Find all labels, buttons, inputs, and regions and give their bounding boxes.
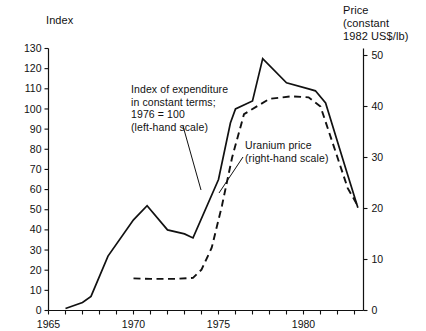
right-tick-label: 40 xyxy=(372,100,384,112)
leader-line-index xyxy=(183,126,201,190)
right-tick-label: 20 xyxy=(372,202,384,214)
plot-area: 0102030405060708090100110120130 01020304… xyxy=(0,0,426,331)
data-series xyxy=(66,59,358,309)
right-tick-label: 30 xyxy=(372,151,384,163)
left-tick-label: 0 xyxy=(36,304,42,316)
right-tick-label: 0 xyxy=(372,304,378,316)
right-tick-label: 50 xyxy=(372,49,384,61)
right-tick-label: 10 xyxy=(372,253,384,265)
left-tick-label: 40 xyxy=(30,223,42,235)
x-tick-label: 1980 xyxy=(292,318,316,330)
left-tick-label: 70 xyxy=(30,163,42,175)
left-tick-label: 130 xyxy=(24,42,42,54)
left-tick-label: 20 xyxy=(30,264,42,276)
left-tick-label: 120 xyxy=(24,62,42,74)
x-tick-label: 1970 xyxy=(122,318,146,330)
left-tick-label: 30 xyxy=(30,244,42,256)
left-tick-label: 60 xyxy=(30,183,42,195)
series-uranium-price xyxy=(134,96,358,279)
right-axis: 01020304050 xyxy=(364,49,384,317)
left-tick-label: 80 xyxy=(30,143,42,155)
left-tick-label: 90 xyxy=(30,123,42,135)
left-tick-label: 100 xyxy=(24,103,42,115)
left-tick-label: 110 xyxy=(25,82,42,94)
series-index-expenditure xyxy=(66,59,358,309)
annotation-leader-lines xyxy=(183,126,243,193)
x-axis: 1965197019751980 xyxy=(37,311,364,330)
uranium-expenditure-chart: Index Price (constant 1982 US$/lb) Index… xyxy=(0,0,426,331)
left-tick-label: 10 xyxy=(30,284,42,296)
x-tick-label: 1975 xyxy=(207,318,231,330)
x-tick-label: 1965 xyxy=(37,318,61,330)
left-tick-label: 50 xyxy=(30,203,42,215)
left-axis: 0102030405060708090100110120130 xyxy=(24,42,49,316)
